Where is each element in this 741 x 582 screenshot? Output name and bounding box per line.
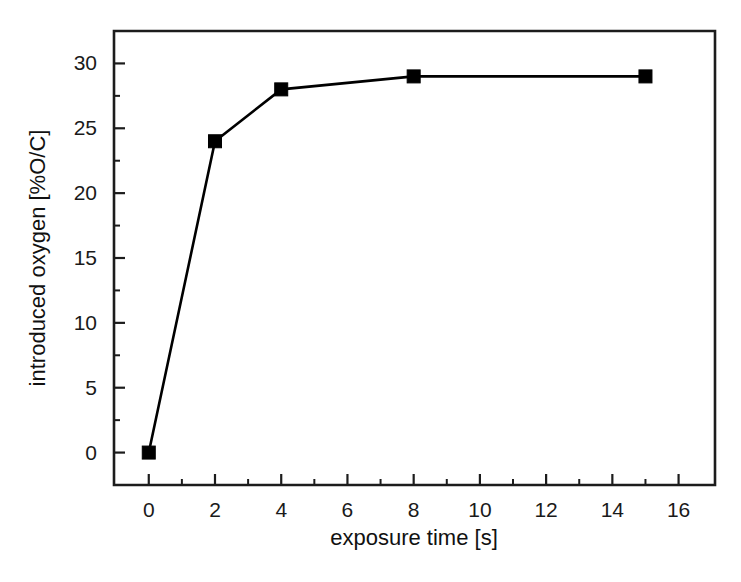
data-point-marker [639, 70, 652, 83]
x-tick-label: 8 [408, 498, 420, 521]
y-tick-label: 0 [85, 441, 97, 464]
y-tick-label: 25 [74, 116, 97, 139]
x-tick-label: 2 [209, 498, 221, 521]
x-tick-label: 10 [468, 498, 491, 521]
data-point-marker [208, 135, 221, 148]
y-tick-label: 20 [74, 181, 97, 204]
y-tick-label: 5 [85, 376, 97, 399]
x-tick-label: 14 [601, 498, 625, 521]
x-tick-label: 6 [342, 498, 354, 521]
y-tick-label: 15 [74, 246, 97, 269]
y-tick-label: 30 [74, 51, 97, 74]
x-tick-label: 0 [143, 498, 155, 521]
x-tick-label: 16 [667, 498, 690, 521]
y-axis-title: introduced oxygen [%O/C] [25, 130, 50, 387]
x-tick-label: 4 [275, 498, 287, 521]
x-tick-label: 12 [534, 498, 557, 521]
data-point-marker [275, 83, 288, 96]
line-chart-canvas: 0246810121416 051015202530 exposure time… [0, 0, 741, 582]
y-tick-label: 10 [74, 311, 97, 334]
x-axis-title: exposure time [s] [330, 525, 498, 550]
chart-background [0, 0, 741, 582]
data-point-marker [142, 446, 155, 459]
chart-figure: 0246810121416 051015202530 exposure time… [0, 0, 741, 582]
data-point-marker [407, 70, 420, 83]
